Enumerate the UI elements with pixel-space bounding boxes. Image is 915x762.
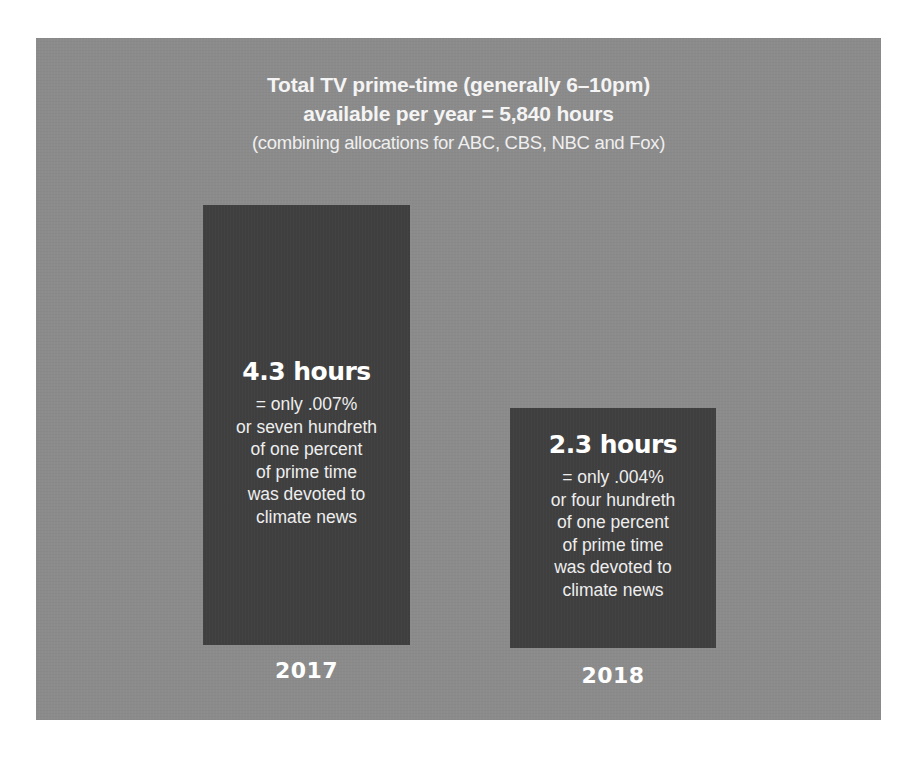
desc-line: climate news [203,506,410,529]
bar-2017: 4.3 hours = only .007% or seven hundreth… [203,205,410,645]
bar-2017-value: 4.3 hours [203,357,410,387]
desc-line: = only .004% [510,466,716,489]
bar-2017-label: 4.3 hours = only .007% or seven hundreth… [203,357,410,528]
x-axis-label-2018: 2018 [510,663,716,688]
bar-2018-label: 2.3 hours = only .004% or four hundreth … [510,430,716,601]
chart-title: Total TV prime-time (generally 6–10pm) a… [36,70,881,128]
title-line-1: Total TV prime-time (generally 6–10pm) [36,70,881,99]
desc-line: of one percent [203,438,410,461]
x-axis-label-2017: 2017 [203,658,410,683]
chart-subtitle: (combining allocations for ABC, CBS, NBC… [36,131,881,155]
bar-2018-description: = only .004% or four hundreth of one per… [510,466,716,601]
desc-line: or four hundreth [510,489,716,512]
bar-2018: 2.3 hours = only .004% or four hundreth … [510,408,716,648]
desc-line: = only .007% [203,393,410,416]
title-line-2: available per year = 5,840 hours [36,99,881,128]
desc-line: of prime time [510,534,716,557]
desc-line: of one percent [510,511,716,534]
desc-line: was devoted to [203,483,410,506]
desc-line: climate news [510,579,716,602]
desc-line: of prime time [203,461,410,484]
desc-line: or seven hundreth [203,416,410,439]
desc-line: was devoted to [510,556,716,579]
chart-panel: Total TV prime-time (generally 6–10pm) a… [36,38,881,720]
bar-2017-description: = only .007% or seven hundreth of one pe… [203,393,410,528]
bar-2018-value: 2.3 hours [510,430,716,460]
